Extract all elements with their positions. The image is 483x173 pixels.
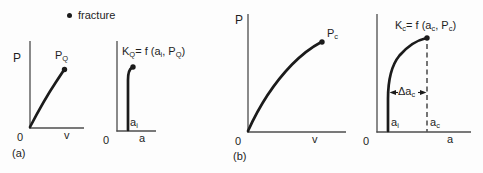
b-kc-title-end: ) bbox=[452, 19, 456, 31]
b-kc-delta-sub: c bbox=[411, 90, 415, 99]
b-kc-ai-sub: i bbox=[397, 121, 399, 130]
b-kc-title: Kc= f (ac, Pc) bbox=[395, 19, 456, 33]
b-pv-point-sub: c bbox=[334, 32, 338, 41]
fracture-dot-icon bbox=[67, 13, 72, 18]
a-pv-point-label: PQ bbox=[55, 49, 68, 63]
a-kq-title-end: ) bbox=[181, 45, 185, 57]
b-kc-title-mid2: , P bbox=[435, 19, 448, 31]
a-pv-load-curve bbox=[30, 71, 64, 128]
legend-label: fracture bbox=[78, 9, 115, 21]
delta-ac-right-arrowhead-icon bbox=[420, 90, 427, 95]
b-kc-x-axis-label: a bbox=[447, 133, 453, 145]
panel-b-tag: (b) bbox=[233, 150, 246, 162]
b-kc-origin-label: 0 bbox=[363, 135, 369, 147]
b-pv-origin-label: 0 bbox=[235, 135, 241, 147]
fracture-figure: fracture P PQ 0 v (a) KQ= f (ai, PQ) ai … bbox=[0, 0, 483, 173]
a-pv-x-axis-label: v bbox=[64, 129, 70, 141]
a-kq-x-axis-label: a bbox=[139, 132, 145, 144]
b-pv-fracture-point bbox=[319, 39, 324, 44]
b-pv-load-curve bbox=[248, 43, 321, 132]
a-pv-point-sub: Q bbox=[62, 54, 68, 63]
b-kc-delta-main: Δa bbox=[398, 85, 411, 97]
a-kq-ai-sub: i bbox=[136, 121, 138, 130]
a-kq-fracture-point bbox=[130, 64, 135, 69]
b-kc-fracture-point bbox=[424, 35, 429, 40]
legend: fracture bbox=[67, 9, 115, 21]
b-kc-ac-label: ac bbox=[430, 116, 440, 130]
b-kc-delta-ac-label: Δac bbox=[398, 85, 415, 99]
b-pv-x-axis-label: v bbox=[312, 133, 318, 145]
panel-a-tag: (a) bbox=[12, 147, 25, 159]
b-pv-point-label: Pc bbox=[327, 27, 338, 41]
a-kq-origin-label: 0 bbox=[103, 134, 109, 146]
a-pv-fracture-point bbox=[62, 67, 67, 72]
b-pv-y-axis-label: P bbox=[235, 14, 243, 27]
a-kq-title-mid2: , P bbox=[162, 45, 175, 57]
b-kc-ac-sub: c bbox=[436, 121, 440, 130]
a-pv-origin-label: 0 bbox=[17, 131, 23, 143]
a-kq-ai-label: ai bbox=[130, 116, 138, 130]
b-kc-ai-label: ai bbox=[391, 116, 399, 130]
delta-ac-left-arrowhead-icon bbox=[390, 90, 397, 95]
a-kq-title: KQ= f (ai, PQ) bbox=[122, 45, 185, 59]
b-kc-title-mid1: = f (a bbox=[406, 19, 431, 31]
a-kq-title-mid1: = f (a bbox=[135, 45, 160, 57]
a-pv-y-axis-label: P bbox=[13, 52, 21, 65]
